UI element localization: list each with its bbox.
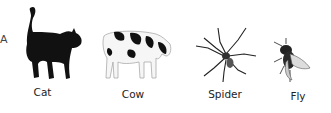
cow-icon xyxy=(100,28,172,82)
partial-letter: A xyxy=(0,33,8,46)
spider-label: Spider xyxy=(206,88,244,100)
fly-icon xyxy=(268,38,312,88)
cat-label: Cat xyxy=(30,86,55,98)
fly-label: Fly xyxy=(288,90,308,102)
cat-icon xyxy=(20,4,85,84)
spider-icon xyxy=(190,26,260,84)
cow-label: Cow xyxy=(118,88,148,100)
